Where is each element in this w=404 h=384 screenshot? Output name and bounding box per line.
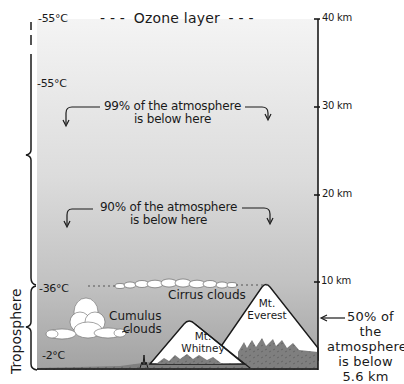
mountain-line: Mt.	[245, 297, 289, 309]
note-line: is below here	[100, 113, 245, 126]
km-label-10: 10 km	[321, 275, 351, 286]
fifty-percent-note: 50% of the atmosphere is below 5.6 km	[327, 309, 404, 384]
note-line: 50% of the	[327, 309, 404, 339]
mountain-line: Mt.	[180, 330, 226, 342]
title-text: Ozone layer	[134, 10, 220, 26]
cirrus-clouds-label: Cirrus clouds	[168, 289, 246, 302]
atmosphere-diagram: - - - Ozone layer - - - -55°C -55°C -36°…	[0, 0, 404, 384]
temp-label-top: -55°C	[38, 12, 68, 25]
mt-whitney-label: Mt. Whitney	[180, 330, 226, 354]
ozone-layer-title: - - - Ozone layer - - -	[100, 10, 254, 26]
upper-bracket	[26, 22, 36, 285]
note-line: atmosphere	[327, 339, 404, 354]
title-dashes-right: - - -	[229, 10, 254, 26]
temp-label-upper: -55°C	[37, 77, 67, 90]
troposphere-label: Troposphere	[8, 288, 24, 374]
km-label-30: 30 km	[322, 100, 352, 111]
cumulus-line: clouds	[109, 323, 162, 336]
troposphere-bracket	[26, 286, 37, 370]
ninety-nine-percent-note: 99% of the atmosphere is below here	[100, 100, 245, 126]
mountain-line: Whitney	[180, 342, 226, 354]
note-line: is below here	[96, 214, 241, 227]
temp-label-surface: -2°C	[42, 349, 65, 362]
temp-label-tropopause: -36°C	[39, 282, 69, 295]
cumulus-clouds-label: Cumulus clouds	[109, 310, 162, 336]
km-label-20: 20 km	[322, 188, 352, 199]
note-line: is below	[327, 354, 404, 369]
km-label-40: 40 km	[322, 12, 352, 23]
title-dashes-left: - - -	[100, 10, 125, 26]
mountain-line: Everest	[245, 309, 289, 321]
mt-everest-label: Mt. Everest	[245, 297, 289, 321]
ninety-percent-note: 90% of the atmosphere is below here	[96, 201, 241, 227]
note-line: 5.6 km	[327, 369, 404, 384]
